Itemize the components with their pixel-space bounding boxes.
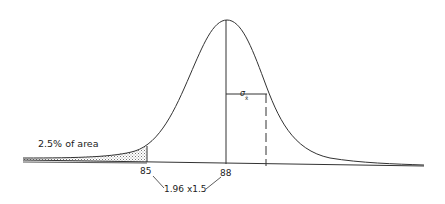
normal-curve-diagram: 2.5% of area 85 88 1.96 x1.5 σ x̄	[0, 0, 445, 204]
leader-line-left	[153, 176, 164, 188]
leader-line-right	[206, 177, 221, 189]
distance-label: 1.96 x1.5	[164, 184, 207, 194]
sigma-subscript: x̄	[245, 95, 249, 101]
tail-area-label: 2.5% of area	[38, 138, 99, 149]
value-88-label: 88	[220, 168, 232, 178]
baseline-axis-lower	[23, 162, 147, 163]
baseline-axis	[23, 160, 424, 166]
value-85-label: 85	[140, 166, 151, 176]
